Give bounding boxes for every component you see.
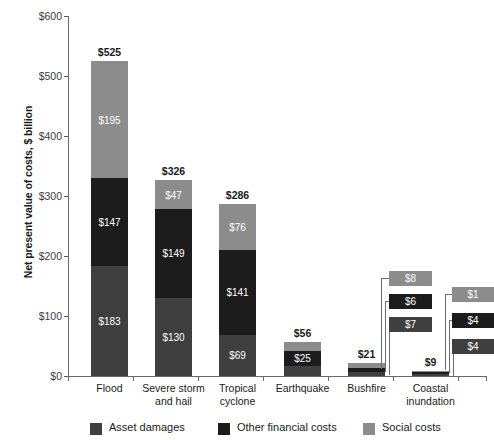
bar-group[interactable]: $183$147$195$525 <box>91 16 128 376</box>
bar-segment[interactable] <box>155 209 192 298</box>
callout-leader-line <box>381 278 382 369</box>
callout-leader-line <box>445 294 452 295</box>
x-tick-mark <box>393 376 394 381</box>
bar-group[interactable]: $21 <box>348 16 385 376</box>
bar-segment[interactable] <box>284 366 321 376</box>
x-axis-line <box>68 376 486 377</box>
legend-label: Social costs <box>382 421 441 433</box>
callout-label: $1 <box>452 287 494 302</box>
callout-leader-line <box>449 320 450 373</box>
y-tick-label: $600 <box>18 10 62 22</box>
y-tick-label: $0 <box>18 370 62 382</box>
bar-segment[interactable] <box>348 363 385 368</box>
y-tick-label: $400 <box>18 130 62 142</box>
bar-segment[interactable] <box>91 61 128 178</box>
y-tick-label: $300 <box>18 190 62 202</box>
callout-leader-line <box>381 278 389 279</box>
bar-segment[interactable] <box>412 371 449 372</box>
legend-label: Asset damages <box>109 421 185 433</box>
legend-swatch <box>363 423 375 435</box>
bar-total-label: $286 <box>205 189 270 201</box>
bar-segment[interactable] <box>284 342 321 350</box>
x-axis-label: Coastal inundation <box>393 382 469 407</box>
x-tick-mark <box>486 376 487 381</box>
bar-segment[interactable] <box>284 351 321 366</box>
y-tick-label: $100 <box>18 310 62 322</box>
callout-label: $6 <box>389 294 432 309</box>
bar-segment[interactable] <box>219 204 256 250</box>
bar-group[interactable]: $130$149$47$326 <box>155 16 192 376</box>
bar-segment[interactable] <box>412 374 449 376</box>
y-axis-line <box>68 16 69 377</box>
bar-group[interactable]: $69$141$76$286 <box>219 16 256 376</box>
bar-segment[interactable] <box>155 298 192 376</box>
legend-swatch <box>90 423 102 435</box>
callout-label: $8 <box>389 271 432 286</box>
bar-segment[interactable] <box>91 178 128 266</box>
callout-label: $7 <box>389 317 432 332</box>
legend-label: Other financial costs <box>237 421 337 433</box>
bar-segment[interactable] <box>219 335 256 376</box>
bar-segment[interactable] <box>348 372 385 376</box>
bar-segment[interactable] <box>219 250 256 335</box>
stacked-bar-chart: Net present value of costs, $ billion $6… <box>0 0 494 440</box>
bar-total-label: $326 <box>141 165 206 177</box>
callout-label: $4 <box>452 313 494 328</box>
x-tick-mark <box>68 376 69 381</box>
legend-swatch <box>218 423 230 435</box>
callout-leader-line <box>445 294 446 370</box>
bar-total-label: $56 <box>270 327 335 339</box>
y-tick-label: $200 <box>18 250 62 262</box>
x-tick-mark <box>198 376 199 381</box>
bar-segment[interactable] <box>91 266 128 376</box>
x-tick-mark <box>133 376 134 381</box>
bar-total-label: $525 <box>77 46 142 58</box>
callout-leader-line <box>385 301 386 372</box>
x-tick-mark <box>458 376 459 381</box>
x-tick-mark <box>328 376 329 381</box>
x-tick-mark <box>263 376 264 381</box>
bar-segment[interactable] <box>348 368 385 372</box>
y-tick-label: $500 <box>18 70 62 82</box>
callout-label: $4 <box>452 339 494 354</box>
bar-group[interactable]: $25$56 <box>284 16 321 376</box>
bar-segment[interactable] <box>155 180 192 208</box>
